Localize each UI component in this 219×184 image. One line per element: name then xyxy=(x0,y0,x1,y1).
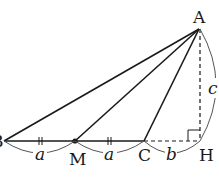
label-point-b: B xyxy=(0,131,4,151)
geometry-figure: A B M C H a a b c xyxy=(0,0,219,184)
right-angle-mark xyxy=(188,130,200,141)
segment-am xyxy=(75,29,199,141)
label-length-ch: b xyxy=(166,144,177,164)
label-point-h: H xyxy=(199,145,214,165)
label-point-m: M xyxy=(69,149,86,169)
label-length-mc: a xyxy=(104,144,114,164)
label-point-a: A xyxy=(192,7,206,27)
label-length-bm: a xyxy=(35,144,45,164)
segment-ac xyxy=(144,29,199,141)
label-length-ah: c xyxy=(208,78,218,98)
segment-ab xyxy=(4,29,199,141)
label-point-c: C xyxy=(138,145,151,165)
